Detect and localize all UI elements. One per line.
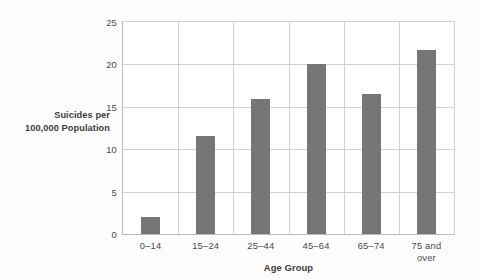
x-axis-tick-labels: 0–1415–2425–4445–6465–7475 and over: [123, 22, 454, 234]
x-tick-label: 75 and over: [399, 240, 454, 263]
y-tick-label: 10: [106, 144, 117, 155]
y-tick-label: 0: [112, 229, 117, 240]
y-tick-label: 20: [106, 59, 117, 70]
x-tick-label: 25–44: [233, 240, 288, 252]
x-tick-label: 65–74: [344, 240, 399, 252]
y-axis-title-line2: 100,000 Population: [6, 122, 110, 135]
plot-area: 0510152025 0–1415–2425–4445–6465–7475 an…: [122, 21, 455, 235]
bar-chart-figure: Suicides per 100,000 Population 05101520…: [0, 0, 483, 280]
y-tick-label: 15: [106, 101, 117, 112]
y-tick-label: 5: [112, 186, 117, 197]
y-axis-title-line1: Suicides per: [54, 110, 110, 120]
y-tick-label: 25: [106, 17, 117, 28]
x-tick-label: 45–64: [289, 240, 344, 252]
x-tick-label: 15–24: [178, 240, 233, 252]
x-tick-label: 0–14: [123, 240, 178, 252]
x-axis-title: Age Group: [122, 262, 455, 273]
y-axis-title: Suicides per 100,000 Population: [6, 109, 110, 134]
